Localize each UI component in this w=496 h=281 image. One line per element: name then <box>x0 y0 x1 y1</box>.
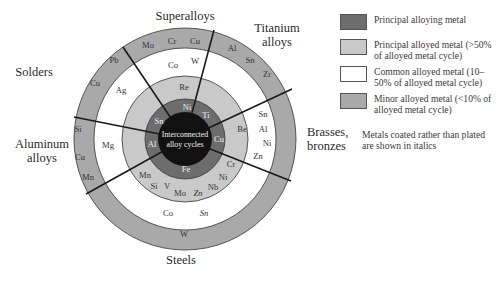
element-pb: Pb <box>109 55 118 65</box>
element-nb: Nb <box>208 182 219 192</box>
element-fe-principal: Fe <box>182 164 191 174</box>
element-ti-principal: Ti <box>202 110 210 120</box>
category-label-titanium-line1: Titanium <box>254 21 300 35</box>
legend-swatch-dark <box>340 14 367 30</box>
center-circle <box>158 112 212 166</box>
legend-swatch-white <box>340 66 367 82</box>
element-sn-brasses: Sn <box>258 109 268 119</box>
element-cu-superalloys: Cu <box>190 36 201 46</box>
element-sn-titanium: Sn <box>245 55 255 65</box>
legend-label: Minor alloyed metal (<10% of alloyed met… <box>374 93 494 115</box>
element-cr-superalloys: Cr <box>168 36 177 46</box>
element-ni-steels: Ni <box>219 172 228 182</box>
element-cr-steels: Cr <box>227 159 236 169</box>
element-si-aluminum: Si <box>74 124 82 134</box>
category-label-aluminum-line1: Aluminum <box>15 137 69 151</box>
category-label-brasses-line2: bronzes <box>307 139 346 153</box>
legend-swatch-medium-gray <box>340 93 367 109</box>
category-label-titanium-line2: alloys <box>262 35 292 49</box>
element-al-brasses: Al <box>259 124 268 134</box>
center-label-line2: alloy cycles <box>166 140 203 149</box>
legend-item-common-alloyed: Common alloyed metal (10–50% of alloyed … <box>340 66 494 88</box>
element-al-titanium: Al <box>228 43 237 53</box>
element-zn-steels: Zn <box>193 188 202 198</box>
legend-item-principal-alloying: Principal alloying metal <box>340 14 494 30</box>
category-label-superalloys: Superalloys <box>155 9 214 23</box>
element-v: V <box>164 181 171 191</box>
element-mo-steels: Mo <box>174 188 186 198</box>
element-mn-aluminum: Mn <box>82 172 95 182</box>
element-sn-steels: Sn <box>200 208 209 218</box>
category-label-steels: Steels <box>166 253 196 267</box>
category-label-solders: Solders <box>15 65 53 79</box>
element-be: Be <box>237 124 247 134</box>
legend-label: Principal alloying metal <box>374 14 494 25</box>
element-co-steels: Co <box>163 208 173 218</box>
element-al-principal: Al <box>148 139 157 149</box>
category-label-aluminum-line2: alloys <box>27 151 57 165</box>
element-cu-principal: Cu <box>214 134 225 144</box>
element-zn-brasses: Zn <box>253 151 263 161</box>
element-cu-solders: Cu <box>90 78 101 88</box>
element-mo-superalloys: Mo <box>142 40 154 50</box>
legend-item-minor-alloyed: Minor alloyed metal (<10% of alloyed met… <box>340 93 494 115</box>
element-mg: Mg <box>102 140 115 150</box>
center-label-line1: Interconnected <box>162 130 208 139</box>
element-cu-aluminum: Cu <box>75 152 86 162</box>
legend-label: Principal alloyed metal (>50% of alloyed… <box>374 39 494 61</box>
element-mn-steels: Mn <box>139 170 152 180</box>
element-ni-principal: Ni <box>183 102 192 112</box>
element-w-superalloys: W <box>191 56 200 66</box>
legend-label: Common alloyed metal (10–50% of alloyed … <box>374 66 494 88</box>
element-ag: Ag <box>116 85 127 95</box>
element-ni-brasses: Ni <box>263 138 272 148</box>
element-zr: Zr <box>263 69 271 79</box>
element-co-superalloys: Co <box>168 60 178 70</box>
legend-swatch-light-gray <box>340 39 367 55</box>
element-w-steels: W <box>180 229 189 239</box>
element-re: Re <box>179 82 189 92</box>
italics-note: Metals coated rather than plated are sho… <box>362 129 492 151</box>
element-si-steels: Si <box>150 181 158 191</box>
element-sn-principal: Sn <box>154 116 164 126</box>
category-label-brasses-line1: Brasses, <box>307 125 348 139</box>
legend-item-principal-alloyed: Principal alloyed metal (>50% of alloyed… <box>340 39 494 61</box>
